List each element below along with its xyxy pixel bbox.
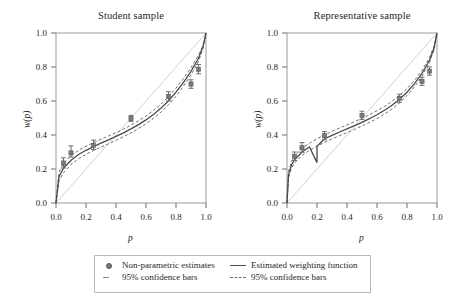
y-axis-right xyxy=(282,33,287,203)
svg-text:0.6: 0.6 xyxy=(267,96,279,106)
legend-entry-confidence-bands: 95% confidence bars xyxy=(230,272,363,282)
figure-legend: Non-parametric estimates Estimated weigh… xyxy=(94,255,371,293)
y-tick-labels-left: 0.0 0.2 0.4 0.6 0.8 1.0 xyxy=(36,28,48,208)
plot-right: 0.0 0.2 0.4 0.6 0.8 1.0 0.0 0.2 0.4 0.6 … xyxy=(236,0,472,250)
svg-text:1.0: 1.0 xyxy=(431,212,443,222)
svg-text:0.0: 0.0 xyxy=(267,198,279,208)
legend-entry-confidence-bars: 95% confidence bars xyxy=(101,272,220,282)
svg-text:0.4: 0.4 xyxy=(110,212,122,222)
svg-text:0.2: 0.2 xyxy=(267,164,278,174)
svg-text:0.6: 0.6 xyxy=(36,96,48,106)
y-axis-left xyxy=(51,33,56,203)
svg-text:1.0: 1.0 xyxy=(200,212,212,222)
svg-text:0.0: 0.0 xyxy=(50,212,62,222)
svg-text:0.4: 0.4 xyxy=(36,130,48,140)
svg-text:0.6: 0.6 xyxy=(140,212,152,222)
svg-text:0.0: 0.0 xyxy=(36,198,48,208)
legend-marker-icon xyxy=(101,261,117,270)
svg-text:0.2: 0.2 xyxy=(311,212,322,222)
legend-dashed-line-icon xyxy=(230,273,246,282)
weighting-function-figure: Student sample w(p) p 0.0 0.2 0.4 0.6 0.… xyxy=(0,0,472,302)
svg-text:0.8: 0.8 xyxy=(170,212,182,222)
legend-short-line-icon xyxy=(101,273,117,282)
legend-solid-line-icon xyxy=(230,261,246,270)
legend-label-confidence-bands: 95% confidence bars xyxy=(251,272,326,282)
svg-text:0.2: 0.2 xyxy=(80,212,91,222)
legend-label-confidence-bars: 95% confidence bars xyxy=(122,272,197,282)
legend-label-weighting-function: Estimated weighting function xyxy=(251,260,357,270)
svg-text:0.8: 0.8 xyxy=(267,62,279,72)
svg-text:1.0: 1.0 xyxy=(267,28,279,38)
x-tick-labels-left: 0.0 0.2 0.4 0.6 0.8 1.0 xyxy=(50,212,212,222)
legend-label-nonparametric: Non-parametric estimates xyxy=(122,260,215,270)
svg-text:0.4: 0.4 xyxy=(267,130,279,140)
svg-text:0.8: 0.8 xyxy=(36,62,48,72)
legend-entry-nonparametric: Non-parametric estimates xyxy=(101,260,220,270)
svg-text:0.8: 0.8 xyxy=(401,212,413,222)
legend-entry-weighting-function: Estimated weighting function xyxy=(230,260,363,270)
svg-text:0.2: 0.2 xyxy=(36,164,47,174)
x-axis-right xyxy=(287,203,437,208)
svg-text:0.4: 0.4 xyxy=(341,212,353,222)
x-axis-left xyxy=(56,203,206,208)
svg-text:0.6: 0.6 xyxy=(371,212,383,222)
y-tick-labels-right: 0.0 0.2 0.4 0.6 0.8 1.0 xyxy=(267,28,279,208)
svg-text:1.0: 1.0 xyxy=(36,28,48,38)
svg-text:0.0: 0.0 xyxy=(281,212,293,222)
x-tick-labels-right: 0.0 0.2 0.4 0.6 0.8 1.0 xyxy=(281,212,443,222)
plot-left: 0.0 0.2 0.4 0.6 0.8 1.0 0.0 0.2 0.4 0.6 … xyxy=(0,0,236,250)
